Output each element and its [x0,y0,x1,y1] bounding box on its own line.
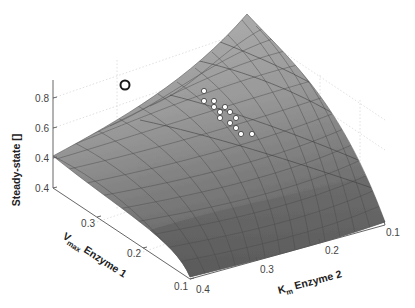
km-tick-0.1: 0.1 [386,227,400,238]
km-tick-0.2: 0.2 [325,245,339,256]
km-tick-0.3: 0.3 [260,264,274,275]
z-tick-0.4: 0.4 [35,153,49,164]
reference-marker [121,81,130,90]
vmax-tick-0.2: 0.2 [127,248,141,259]
z-axis-label: Steady-state [] [10,134,22,206]
vmax-tick-0.1: 0.1 [174,281,188,292]
km-tick-0.4: 0.4 [196,284,210,295]
z-tick-0.8: 0.8 [35,93,49,104]
z-tick-labels: 0.8 0.6 0.4 0.4 [35,93,49,194]
z-tick-0.6: 0.6 [35,123,49,134]
vmax-tick-0.3: 0.3 [81,218,95,229]
surface [53,14,390,290]
z-tick-base: 0.4 [35,183,49,194]
surface-plot: 0.8 0.6 0.4 0.4 0.3 0.2 0.1 0.4 0.3 0.2 … [0,0,415,308]
km-axis-label: Km Enzyme 2 [276,267,343,299]
vmax-axis-label: Vmax Enzyme 1 [59,230,129,283]
